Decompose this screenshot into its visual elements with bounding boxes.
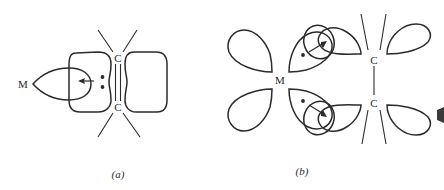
electron-dot-upper [301, 53, 305, 57]
carbon-bottom-label: C [370, 97, 377, 109]
substituent-bond-top-right [123, 30, 137, 52]
metal-label: M [18, 78, 28, 90]
orbital-diagram-figure: M C C (a) [0, 0, 444, 190]
substituent-bond-top-right [380, 14, 386, 50]
pi-star-lobe-upper-left [318, 28, 361, 54]
panel-b: M C C (b) [228, 14, 444, 178]
carbon-top-label: C [114, 52, 121, 64]
metal-label: M [275, 74, 285, 86]
substituent-bond-bottom-right [380, 110, 386, 144]
pi-orbital-lobe-right [125, 52, 167, 112]
panel-a: M C C (a) [18, 30, 167, 181]
pi-orbital-lobe-left [69, 52, 111, 112]
d-orbital-lobe-upper-left [228, 30, 272, 72]
panel-b-label: (b) [296, 165, 309, 178]
diagram-canvas: M C C (a) [0, 0, 444, 190]
substituent-bond-bottom-left [98, 113, 113, 137]
d-orbital-lobe-lower-left [228, 89, 272, 131]
substituent-bond-top-left [98, 30, 113, 52]
substituent-bond-bottom-left [362, 110, 368, 144]
carbon-top-label: C [370, 54, 377, 66]
carbon-bottom-label: C [114, 101, 121, 113]
metal-orbital-teardrop [33, 68, 91, 100]
pi-star-lobe-upper-right [387, 24, 430, 54]
substituent-bond-bottom-right [123, 113, 140, 137]
page-edge-shadow [437, 107, 444, 123]
substituent-bond-top-left [361, 14, 368, 50]
electron-dot-1 [101, 75, 105, 79]
pi-star-lobe-lower-right [387, 105, 430, 135]
electron-dot-2 [101, 85, 105, 89]
panel-a-label: (a) [112, 168, 125, 181]
electron-dot-lower [301, 99, 305, 103]
back-donation-arrow-lower [309, 105, 327, 117]
d-orbital-lobe-upper-right [289, 32, 332, 72]
